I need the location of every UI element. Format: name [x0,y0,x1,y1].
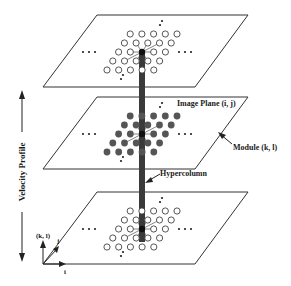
ellipsis-dot-left [94,228,96,230]
grid-node [116,226,122,232]
axis-kl-label: (k, l) [36,232,51,240]
grid-node [115,131,122,138]
grid-node [157,58,163,64]
grid-node [162,208,168,214]
ellipsis-dot-diag [120,160,122,162]
grid-node [151,31,157,37]
grid-node [109,140,116,147]
grid-node [145,40,151,46]
grid-node [145,235,151,241]
grid-node [110,235,116,241]
axis-j-label: j [56,237,59,245]
grid-node [156,140,163,147]
grid-node [151,244,157,250]
grid-node [139,244,145,250]
ellipsis-dot-right [178,51,180,53]
grid-node [121,140,128,147]
ellipsis-dot-left [82,133,84,135]
grid-node [127,31,133,37]
ellipsis-dot-diag [159,201,161,203]
grid-node [127,149,134,156]
grid-node [133,235,139,241]
ellipsis-dot-right [190,51,192,53]
ellipsis-dot-left [82,228,84,230]
grid-node [127,67,133,73]
node-grid-top [82,20,192,80]
ellipsis-dot-right [184,51,186,53]
hub-node [139,131,145,137]
grid-node [144,122,151,129]
grid-node [116,244,122,250]
ellipsis-dot-diag [122,74,124,76]
grid-node [151,49,157,55]
grid-node [168,122,175,129]
grid-node [157,235,163,241]
ellipsis-dot-right [190,133,192,135]
grid-node [121,235,127,241]
module-label: Module (k, l) [233,143,278,152]
ellipsis-dot-left [94,133,96,135]
ellipsis-dot-right [190,228,192,230]
grid-node [121,40,127,46]
hypercolumn-diagram: Image Plane (i, j) Module (k, l) Hyperco… [0,0,291,286]
plane-top [43,15,248,87]
ellipsis-dot-diag [159,106,161,108]
hub-node [139,226,145,232]
grid-node [174,31,180,37]
grid-node [162,131,169,138]
grid-node [139,113,146,120]
grid-node [116,49,122,55]
axis-j-line [43,249,57,264]
grid-node [156,40,162,46]
grid-node [151,226,157,232]
grid-node [121,217,127,223]
ellipsis-dot-left [88,228,90,230]
grid-node [127,131,134,138]
grid-node [156,122,163,129]
grid-node [121,122,128,129]
axis-i-label: i [64,268,66,276]
axis-kl-head [40,240,46,248]
ellipsis-dot-right [184,228,186,230]
grid-node [104,149,111,156]
ellipsis-dot-left [82,51,84,53]
grid-node [139,67,145,73]
grid-node [116,67,122,73]
grid-node [133,58,139,64]
grid-node [115,149,122,156]
hub-node [139,49,145,55]
grid-node [174,208,180,214]
ellipsis-dot-diag [120,78,122,80]
node-grid-middle [82,102,192,162]
ellipsis-dot-diag [122,156,124,158]
grid-node [145,217,151,223]
hypercolumn-label: Hypercolumn [160,169,208,178]
grid-node [145,140,152,147]
ellipsis-dot-right [184,133,186,135]
velocity-arrow-down-head [19,253,25,262]
ellipsis-dot-diag [120,255,122,257]
grid-node [139,208,145,214]
grid-node [150,131,157,138]
grid-node [150,113,157,120]
axis-i-head [59,261,66,267]
grid-node [127,226,133,232]
grid-node [145,58,151,64]
grid-node [162,226,168,232]
grid-node [127,208,133,214]
grid-node [127,244,133,250]
grid-node [162,31,168,37]
velocity-arrow-up-head [19,90,25,99]
ellipsis-dot-left [94,51,96,53]
hypercolumn-arrow-head [145,177,153,183]
ellipsis-dot-right [178,133,180,135]
grid-node [162,49,168,55]
ellipsis-dot-diag [159,24,161,26]
grid-node [104,67,110,73]
grid-node [168,217,174,223]
grid-node [127,49,133,55]
ellipsis-dot-right [178,228,180,230]
node-grid-bottom [82,197,192,257]
grid-node [151,208,157,214]
grid-node [139,149,146,156]
